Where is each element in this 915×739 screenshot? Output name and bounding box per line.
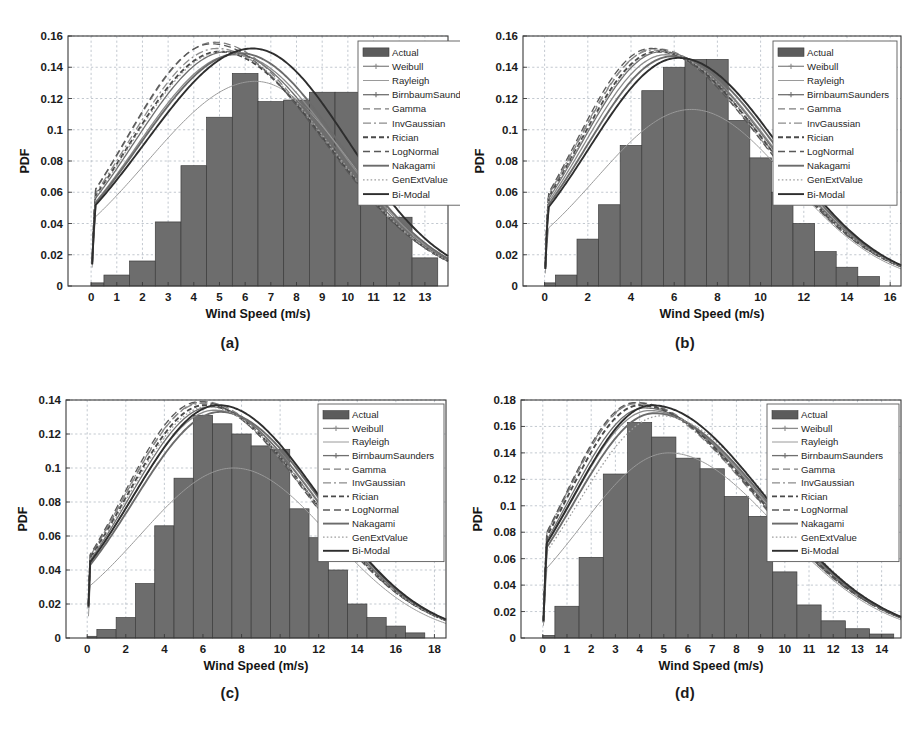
legend-label: Rician [352,491,379,502]
x-tick-label: 7 [268,291,274,303]
y-tick-label: 0.14 [496,61,519,73]
x-tick-label: 2 [139,291,145,303]
histogram-bar [652,437,676,638]
y-tick-label: 0.08 [494,526,517,538]
y-tick-label: 0.12 [496,93,518,105]
y-tick-label: 0.1 [45,462,62,474]
chart-c: 00.020.040.060.080.10.120.14024681012141… [0,378,460,688]
legend-label: Gamma [392,103,427,114]
y-tick-label: 0 [512,280,518,292]
histogram-bar [577,239,599,286]
y-axis-title: PDF [473,148,487,173]
x-tick-label: 8 [238,643,245,655]
legend-label: Weibull [807,61,838,72]
x-tick-label: 8 [293,291,300,303]
x-tick-label: 10 [754,291,767,303]
x-tick-label: 4 [161,643,168,655]
legend-label: Actual [801,409,828,420]
legend-label: Nakagami [392,160,435,171]
legend-label: InvGaussian [392,118,445,129]
legend: ActualWeibullRayleighBirnbaumSaundersGam… [358,41,460,205]
legend: ActualWeibullRayleighBirnbaumSaundersGam… [773,41,897,205]
x-tick-label: 2 [123,643,129,655]
y-tick-label: 0.02 [39,598,61,610]
legend-swatch-actual [363,48,389,56]
legend-swatch-actual [323,411,349,419]
histogram-bar [750,158,772,286]
legend-label: Rayleigh [352,436,389,447]
panel-d: 00.020.040.060.080.10.120.140.160.180123… [455,378,915,738]
x-tick-label: 14 [351,643,364,655]
legend: ActualWeibullRayleighBirnbaumSaundersGam… [318,404,444,562]
y-tick-label: 0.04 [39,564,62,576]
y-tick-label: 0.1 [47,124,64,136]
x-tick-label: 16 [389,643,402,655]
y-tick-label: 0.04 [494,579,517,591]
x-tick-label: 10 [341,291,354,303]
y-tick-label: 0.12 [39,428,61,440]
y-tick-label: 0 [57,280,63,292]
panel-c-caption: (c) [0,684,460,701]
histogram-bar [405,633,424,638]
histogram-bar [270,449,289,638]
y-tick-label: 0.14 [41,61,64,73]
histogram-bar [773,572,797,638]
legend-label: Rayleigh [807,75,844,86]
histogram-bar [258,102,284,286]
histogram-bar [328,570,347,638]
x-tick-label: 2 [588,643,594,655]
legend-label: GenExtValue [352,532,408,543]
y-tick-label: 0.06 [494,553,516,565]
y-tick-label: 0.14 [494,447,517,459]
histogram-bar [348,604,367,638]
x-tick-label: 4 [628,291,635,303]
histogram-bar [858,277,880,286]
x-tick-label: 3 [165,291,171,303]
legend-label: Nakagami [352,518,395,529]
histogram-bar [290,509,309,638]
y-tick-label: 0.06 [39,530,61,542]
legend-label: LogNormal [352,504,399,515]
x-tick-label: 0 [541,291,547,303]
legend-label: Bi-Modal [801,545,839,556]
legend-label: Weibull [801,423,832,434]
x-tick-label: 12 [797,291,810,303]
histogram-bar [700,469,724,638]
x-tick-label: 0 [540,643,546,655]
panel-c: 00.020.040.060.080.10.120.14024681012141… [0,378,460,738]
x-tick-label: 7 [709,643,715,655]
x-tick-label: 4 [191,291,198,303]
x-tick-label: 6 [200,643,206,655]
legend-label: Nakagami [807,160,850,171]
histogram-bar [207,117,233,286]
legend-label: Rayleigh [392,75,429,86]
histogram-bar [797,605,821,638]
histogram-bar [685,59,707,286]
panel-b: 00.020.040.060.080.10.120.140.1602468101… [455,8,915,368]
legend-label: LogNormal [807,146,854,157]
legend-label: Rician [392,132,419,143]
y-tick-label: 0.02 [496,249,518,261]
histogram-bar [232,74,258,287]
x-tick-label: 12 [827,643,840,655]
panel-d-caption: (d) [455,684,915,701]
x-tick-label: 5 [216,291,223,303]
y-tick-label: 0.06 [41,186,63,198]
legend-label: Actual [392,47,419,58]
legend-label: Gamma [352,464,387,475]
x-tick-label: 12 [393,291,406,303]
legend-label: Weibull [352,423,383,434]
legend-label: Gamma [807,103,842,114]
legend-label: GenExtValue [392,174,448,185]
x-tick-label: 14 [841,291,854,303]
y-tick-label: 0.02 [494,606,516,618]
y-tick-label: 0.18 [494,394,517,406]
x-tick-label: 6 [671,291,677,303]
x-tick-label: 8 [714,291,721,303]
x-tick-label: 0 [88,291,94,303]
histogram-bar [555,606,579,638]
panel-a: 00.020.040.060.080.10.120.140.1601234567… [0,8,460,368]
panel-b-caption: (b) [455,334,915,351]
histogram-bar [793,224,815,287]
histogram-bar [728,120,750,286]
